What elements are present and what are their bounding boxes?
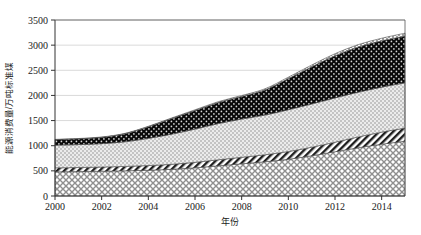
x-tick-label: 2006 <box>185 201 205 212</box>
y-tick-label: 2500 <box>28 65 48 76</box>
y-tick-label: 1500 <box>28 115 48 126</box>
y-tick-label: 1000 <box>28 140 48 151</box>
y-axis-ticks: 0500100015002000250030003500 <box>28 15 55 202</box>
energy-consumption-stacked-area-chart: 0500100015002000250030003500 20002002200… <box>0 0 421 235</box>
y-tick-label: 3000 <box>28 40 48 51</box>
y-axis-title: 能源消费量/万吨标准煤 <box>4 62 14 154</box>
x-tick-label: 2010 <box>278 201 298 212</box>
y-tick-label: 2000 <box>28 90 48 101</box>
x-tick-label: 2000 <box>45 201 65 212</box>
y-tick-label: 0 <box>43 191 48 202</box>
x-tick-label: 2002 <box>92 201 112 212</box>
x-tick-label: 2004 <box>138 201 158 212</box>
y-tick-label: 3500 <box>28 15 48 26</box>
x-tick-label: 2008 <box>232 201 252 212</box>
x-tick-label: 2012 <box>325 201 345 212</box>
x-axis-ticks: 20002002200420062008201020122014 <box>45 196 392 212</box>
chart-canvas: 0500100015002000250030003500 20002002200… <box>0 0 421 235</box>
x-axis-title: 年份 <box>221 216 239 227</box>
y-tick-label: 500 <box>33 165 48 176</box>
x-tick-label: 2014 <box>372 201 392 212</box>
